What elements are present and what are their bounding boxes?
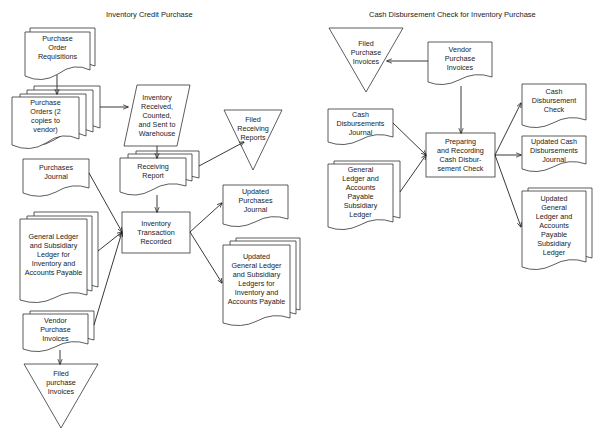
filed-receiving-label: Filed Receiving Reports (228, 112, 278, 144)
right-diagram-title: Cash Disbursement Check for Inventory Pu… (369, 10, 536, 19)
purchases-journal-label: Purchases Journal (23, 160, 89, 184)
purchase-orders-label: Purchase Orders (2 copies to vendor) (12, 97, 79, 135)
cash-journal-label: Cash Disbursements Journal (328, 109, 393, 137)
inventory-received-label: Inventory Received, Counted, and Sent to… (130, 87, 184, 144)
right-vendor-invoices-label: Vendor Purchase Invoices (428, 42, 492, 74)
general-ledger-label: General Ledger and Subsidiary Ledger for… (19, 221, 88, 287)
filed-invoices-label: Filed purchase Invoices (36, 366, 86, 398)
transaction-recorded-label: Inventory Transaction Recorded (122, 212, 190, 253)
right-general-ledger-label: General Ledger and Accounts Payable Subs… (328, 164, 393, 220)
po-requisitions-label: Purchase Order Requisitions (25, 32, 90, 62)
left-diagram-title: Inventory Credit Purchase (106, 10, 193, 19)
updated-general-ledger-label: Updated General Ledger and Subsidiary Le… (222, 246, 291, 312)
cash-check-label: Cash Disbursement Check (522, 84, 586, 116)
receiving-report-label: Receiving Report (120, 160, 186, 182)
updated-cash-journal-label: Updated Cash Disbursements Journal (522, 136, 586, 164)
updated-purchases-journal-label: Updated Purchases Journal (223, 185, 288, 215)
preparing-check-label: Preparing and Recording Cash Disbur- sem… (426, 133, 495, 177)
right-updated-general-ledger-label: Updated General Ledger and Accounts Paya… (522, 192, 586, 258)
flowchart-canvas (0, 0, 601, 434)
vendor-invoices-label: Vendor Purchase Invoices (23, 314, 88, 344)
right-filed-invoices-label: Filed Purchase Invoices (341, 36, 391, 68)
